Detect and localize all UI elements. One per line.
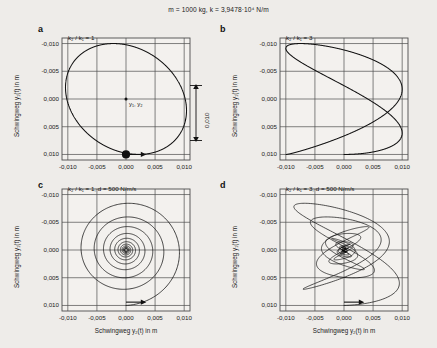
panel-b-plot: k₂ / k₁ = 3-0,010-0,0050,0000,0050,010-0… [280,38,410,162]
x-tick-label: 0,010 [385,163,419,170]
figure-caption: m = 1000 kg, k = 3,9478·10⁴ N/m [0,6,437,13]
origin-marker [125,98,128,101]
panel-d-letter: d [220,180,226,190]
scale-bar: 0,010 [190,84,202,142]
y-tick-label: 0,010 [27,301,59,308]
plot-canvas-b [280,38,410,162]
y-tick-label: 0,000 [245,246,277,253]
panel-d-plot: k₂ / k₁ = 3, d = 500 N/m/s-0,010-0,0050,… [280,189,410,313]
y-tick-label: 0,010 [245,301,277,308]
y-tick-label: -0,005 [27,67,59,74]
x-tick-label: 0,010 [385,314,419,321]
panel-a-letter: a [38,24,43,34]
plot-canvas-d [280,189,410,313]
plot-canvas-c [62,189,192,313]
panel-a-plot: k₂ / k₁ = 1y₁, y₂-0,010-0,0050,0000,0050… [62,38,192,162]
panel-b-letter: b [220,24,226,34]
panel-c-plot: k₂ / k₁ = 1, d = 500 N/m/s-0,010-0,0050,… [62,189,192,313]
y-tick-label: 0,005 [27,274,59,281]
y-axis-label: Schwingweg y₁(t) in m [13,75,20,137]
y-tick-label: -0,010 [245,191,277,198]
x-tick-label: 0,010 [167,163,201,170]
panel-a-annotation: k₂ / k₁ = 1 [68,34,94,41]
y-tick-label: 0,000 [27,95,59,102]
y-tick-label: 0,005 [27,123,59,130]
y-tick-label: 0,010 [27,150,59,157]
x-tick-label: 0,010 [167,314,201,321]
y-tick-label: -0,005 [245,67,277,74]
panel-d-annotation: k₂ / k₁ = 3, d = 500 N/m/s [286,185,354,192]
y-axis-label: Schwingweg y₁(t) in m [231,75,238,137]
panel-b-annotation: k₂ / k₁ = 3 [286,34,312,41]
figure-root: m = 1000 kg, k = 3,9478·10⁴ N/m a k₂ / k… [0,0,437,348]
scale-bar-graphic [190,84,202,142]
y-tick-label: -0,010 [27,191,59,198]
y-axis-label: Schwingweg y₁(t) in m [13,226,20,288]
y-axis-label: Schwingweg y₁(t) in m [231,226,238,288]
x-axis-label: Schwingweg y₂(t) in m [280,327,408,334]
x-axis-label: Schwingweg y₂(t) in m [62,327,190,334]
panel-c-letter: c [38,180,43,190]
y-tick-label: 0,000 [245,95,277,102]
y-tick-label: -0,010 [27,40,59,47]
y-tick-label: -0,005 [245,218,277,225]
y-tick-label: -0,010 [245,40,277,47]
plot-canvas-a [62,38,192,162]
y-tick-label: 0,005 [245,274,277,281]
y-tick-label: 0,005 [245,123,277,130]
y-tick-label: -0,005 [27,218,59,225]
panel-c-annotation: k₂ / k₁ = 1, d = 500 N/m/s [68,185,136,192]
y-tick-label: 0,010 [245,150,277,157]
scale-bar-label: 0,010 [203,113,210,128]
y-tick-label: 0,000 [27,246,59,253]
origin-point-label: y₁, y₂ [129,101,143,107]
